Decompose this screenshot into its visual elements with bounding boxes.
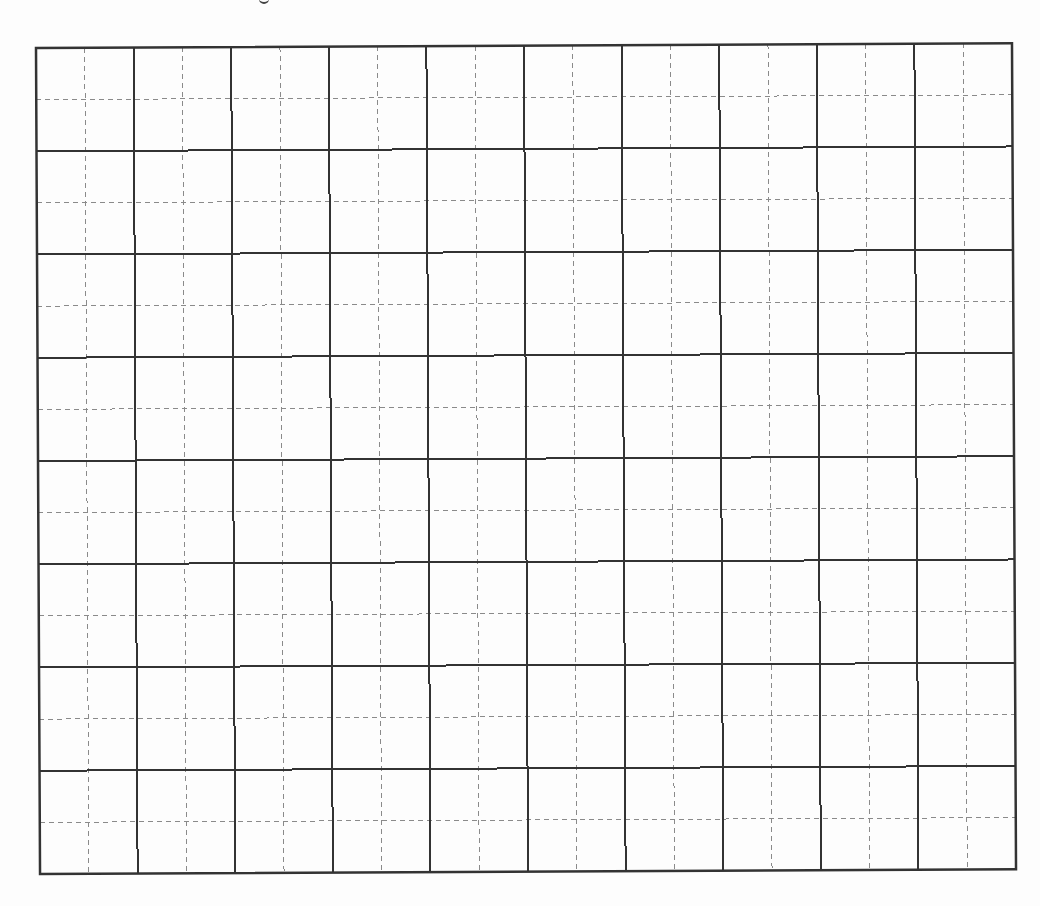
grid-lines xyxy=(36,43,1016,874)
graph-paper-grid xyxy=(36,43,1016,874)
worksheet-page xyxy=(0,0,1040,906)
cut-off-heading-fragment xyxy=(259,0,269,4)
